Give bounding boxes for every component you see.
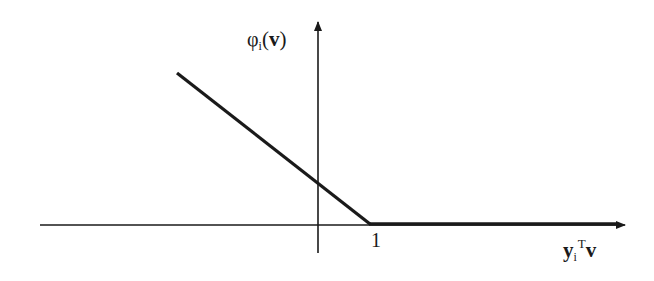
y-label-open-paren: ( <box>262 27 269 51</box>
x-label-superscript: T <box>578 236 586 251</box>
plot-canvas <box>0 0 654 281</box>
y-axis-label: φi(v) <box>247 27 286 54</box>
x-label-argument: v <box>586 238 597 262</box>
x-label-base: y <box>563 238 574 262</box>
x-label-subscript: i <box>574 250 577 264</box>
hinge-loss-diagram: φi(v) 1 yiTv <box>0 0 654 281</box>
y-label-argument: v <box>269 27 280 51</box>
y-label-close-paren: ) <box>279 27 286 51</box>
x-axis-label: yiTv <box>563 236 596 265</box>
loss-decreasing-segment <box>177 73 370 224</box>
y-label-symbol: φ <box>247 28 259 50</box>
x-tick-label-1: 1 <box>371 229 381 252</box>
